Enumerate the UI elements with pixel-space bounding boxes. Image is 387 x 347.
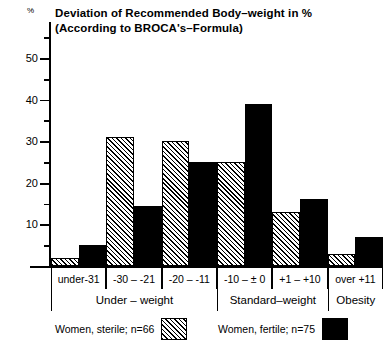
bar [300,199,328,266]
y-axis-tick-label: 40 [0,94,38,106]
y-axis-tick-label: 10 [0,218,38,230]
bar [245,104,273,266]
y-axis-tick-major [40,58,50,60]
x-axis-category-label: -20 – -11 [162,268,217,289]
bar [79,245,107,266]
y-axis-tick-labels: 1020304050 [0,0,38,347]
legend-swatch [322,318,348,340]
x-axis-category-labels: under-31-30 – -21-20 – -11-10 – ± 0+1 – … [51,268,383,289]
y-axis-tick-label: 50 [0,52,38,64]
bar [162,141,190,266]
y-axis-tick-minor [44,204,51,206]
x-axis-group-labels: Under – weightStandard–weightObesity [38,289,383,311]
x-axis-category-label: -10 – ± 0 [217,268,272,289]
x-axis-category-label: -30 – -21 [106,268,161,289]
bar [328,254,356,266]
y-axis-tick-major [40,141,50,143]
bar [272,212,300,266]
plot-area [51,22,383,266]
y-axis-tick-label: 30 [0,135,38,147]
legend-label: Women, fertile; n=75 [218,323,315,335]
y-axis-tick-major [40,224,50,226]
y-axis-tick-minor [44,120,51,122]
chart-title-line-1: Deviation of Recommended Body–weight in … [55,6,385,21]
bar [106,137,134,266]
y-axis-tick-minor [44,162,51,164]
x-axis-group-label: Obesity [328,289,383,311]
chart-legend: Women, sterile; n=66Women, fertile; n=75 [55,317,375,343]
x-axis-group-label: Standard–weight [217,289,328,311]
bar [189,162,217,266]
y-axis-tick-minor [44,245,51,247]
legend-label: Women, sterile; n=66 [55,323,154,335]
y-axis-tick-major [40,100,50,102]
bar [134,206,162,266]
bar [217,162,245,266]
bar [51,258,79,266]
y-axis-tick-minor [44,37,51,39]
x-axis-category-label: +1 – +10 [272,268,327,289]
y-axis-tick-minor [44,79,51,81]
legend-swatch [161,318,187,340]
x-axis-category-label: under-31 [51,268,106,289]
y-axis-tick-label: 20 [0,177,38,189]
x-axis-group-label: Under – weight [51,289,217,311]
bar [355,237,383,266]
chart-container: Deviation of Recommended Body–weight in … [0,0,387,347]
legend-entry: Women, fertile; n=75 [218,317,348,341]
legend-entry: Women, sterile; n=66 [55,317,187,341]
x-axis-category-label: over +11 [328,268,383,289]
y-axis-tick-major [40,183,50,185]
